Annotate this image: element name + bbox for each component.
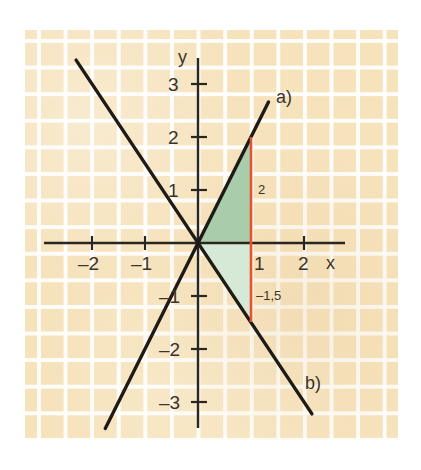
curve-label-a: a): [276, 88, 292, 106]
x-tick-label--2: –2: [78, 254, 99, 273]
figure-canvas: 3 2 1 –1 –2 –3 –2 –1 1 2 x y a) b) 2 –1,…: [0, 0, 421, 470]
curve-label-b: b): [305, 374, 321, 392]
x-axis-label: x: [326, 254, 335, 272]
y-tick-label-2: 2: [168, 128, 179, 147]
x-tick-label-2: 2: [298, 254, 309, 273]
segment-top-label: 2: [258, 183, 265, 196]
y-axis-label: y: [178, 48, 187, 66]
y-tick-label-1: 1: [168, 181, 179, 200]
plot-graphics: [0, 0, 421, 470]
x-tick-label--1: –1: [131, 254, 152, 273]
y-tick-label--1: –1: [159, 287, 180, 306]
segment-bottom-label: –1,5: [256, 289, 281, 302]
y-tick-label--2: –2: [159, 340, 180, 359]
x-tick-label-1: 1: [254, 254, 265, 273]
y-tick-label--3: –3: [159, 393, 180, 412]
y-tick-label-3: 3: [168, 75, 179, 94]
curve-line-b: [76, 60, 312, 414]
